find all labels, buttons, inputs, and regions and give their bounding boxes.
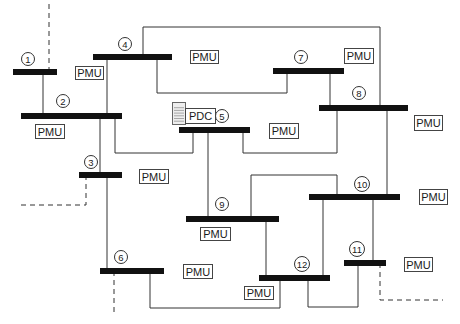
bus-12: 12	[259, 257, 330, 282]
bus-11: 11	[344, 242, 386, 267]
bus-bar	[93, 54, 172, 60]
bus-bar	[273, 68, 344, 74]
bus-bar	[186, 216, 279, 222]
pmu-label: PMU	[203, 228, 228, 240]
bus-bar	[13, 69, 57, 75]
bus-number-label: 8	[356, 88, 361, 99]
pmu-box: PMU	[415, 116, 443, 131]
bus-bar	[100, 268, 164, 274]
pmu-label: PMU	[416, 117, 441, 129]
pmu-label: PMU	[272, 125, 297, 137]
bus-number-label: 1	[25, 54, 30, 65]
bus-number-label: 4	[122, 39, 127, 50]
pmu-box: PMU	[405, 258, 433, 272]
line-4-7	[157, 57, 287, 93]
pmu-label: PMU	[247, 287, 272, 299]
pmu-box: PMU	[191, 51, 219, 64]
power-network-diagram: 123456789101112 PMUPMUPMUPMUPMUPMUPMUPMU…	[0, 0, 460, 324]
bus-number-label: 5	[219, 111, 224, 122]
bus-number-label: 7	[298, 52, 303, 63]
external-line-bus-3	[21, 175, 86, 205]
bus-bar	[344, 260, 386, 266]
line-12-11	[308, 263, 358, 307]
pmu-box: PMU	[201, 228, 231, 241]
bus-bar	[79, 172, 122, 178]
pmu-label: PMU	[347, 50, 372, 62]
line-4-8	[143, 27, 380, 108]
pdc-group: PDC	[173, 103, 216, 125]
pmu-box: PMU	[140, 170, 169, 184]
pmu-box: PMU	[184, 265, 213, 279]
bus-6: 6	[100, 251, 164, 275]
bus-number-label: 11	[352, 244, 362, 255]
pdc-box: PDC	[186, 109, 216, 124]
buses: 123456789101112	[13, 38, 408, 282]
pdc-server-icon	[173, 103, 186, 125]
pmu-box: PMU	[36, 125, 65, 139]
pmu-label: PMU	[38, 126, 63, 138]
bus-number-label: 12	[297, 259, 308, 270]
bus-bar	[309, 194, 400, 200]
pmu-label: PMU	[421, 191, 446, 203]
bus-number-label: 3	[88, 157, 93, 168]
bus-number-label: 9	[219, 199, 224, 210]
pmu-box: PMU	[420, 190, 448, 205]
pmu-box: PMU	[76, 67, 104, 80]
pmu-box: PMU	[345, 49, 374, 64]
pmu-label: PMU	[186, 266, 211, 278]
pmu-label: PMU	[192, 51, 217, 63]
pmu-box: PMU	[270, 124, 299, 139]
bus-8: 8	[319, 87, 408, 112]
bus-bar	[259, 275, 330, 281]
bus-number-label: 10	[357, 179, 368, 190]
bus-9: 9	[186, 198, 279, 223]
bus-number-label: 6	[118, 252, 123, 263]
bus-number-label: 2	[60, 96, 65, 107]
pmu-label: PMU	[77, 67, 102, 79]
bus-10: 10	[309, 177, 400, 201]
bus-4: 4	[93, 38, 172, 61]
bus-bar	[179, 127, 250, 133]
bus-bar	[319, 105, 408, 111]
bus-1: 1	[13, 53, 57, 76]
pmu-label: PMU	[142, 171, 167, 183]
pdc-label: PDC	[189, 110, 212, 122]
bus-bar	[21, 113, 122, 119]
pmu-label: PMU	[406, 259, 431, 271]
pmu-box: PMU	[245, 287, 274, 300]
bus-7: 7	[273, 51, 344, 75]
